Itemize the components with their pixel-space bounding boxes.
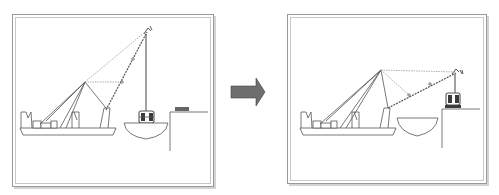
barge-hull: [300, 128, 396, 135]
load-module: [139, 111, 154, 123]
barge-hull: [20, 128, 116, 135]
quay-pier: [170, 107, 208, 151]
diagram-canvas: [0, 0, 499, 195]
transport-vessel: [397, 118, 438, 136]
pier-label-block: [175, 107, 189, 111]
boom-tip: [452, 69, 463, 74]
boom-tip: [144, 26, 152, 34]
transport-vessel: [124, 123, 168, 139]
crane-boom: [106, 32, 147, 110]
quay-pier: [442, 109, 480, 148]
panel-after: [300, 69, 480, 148]
load-module: [445, 93, 461, 108]
barge-deck-structures: [301, 108, 390, 128]
panel-before: [20, 26, 208, 151]
transition-arrow: [231, 78, 265, 106]
